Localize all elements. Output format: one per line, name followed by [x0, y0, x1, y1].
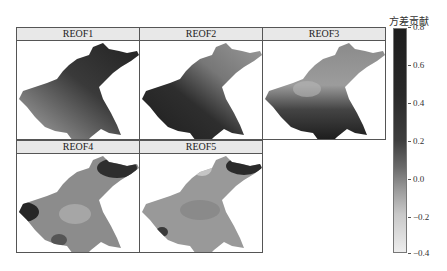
panel-title: REOF1 [17, 28, 139, 41]
map-reof2 [140, 41, 262, 139]
colorbar-tick: 0.6 [408, 60, 424, 70]
panel-title: REOF5 [140, 141, 262, 154]
colorbar-tick: 0.2 [408, 136, 424, 146]
colorbar-tick: −0.4 [408, 248, 429, 258]
panel-reof5: REOF5 [139, 140, 263, 253]
panel-reof2: REOF2 [139, 27, 263, 140]
map-reof5 [140, 154, 262, 252]
panel-reof3: REOF3 [262, 27, 386, 140]
colorbar-tick: 0.8 [408, 22, 424, 32]
colorbar-tick: 0.4 [408, 98, 424, 108]
panel-title: REOF3 [263, 28, 385, 41]
map-reof1 [17, 41, 139, 139]
colorbar-tick: 0.0 [408, 174, 424, 184]
panel-title: REOF4 [17, 141, 139, 154]
panel-title: REOF2 [140, 28, 262, 41]
colorbar-tick: −0.2 [408, 212, 429, 222]
map-reof3 [263, 41, 385, 139]
map-reof4 [17, 154, 139, 252]
panel-reof1: REOF1 [16, 27, 140, 140]
panel-reof4: REOF4 [16, 140, 140, 253]
colorbar [393, 28, 407, 253]
